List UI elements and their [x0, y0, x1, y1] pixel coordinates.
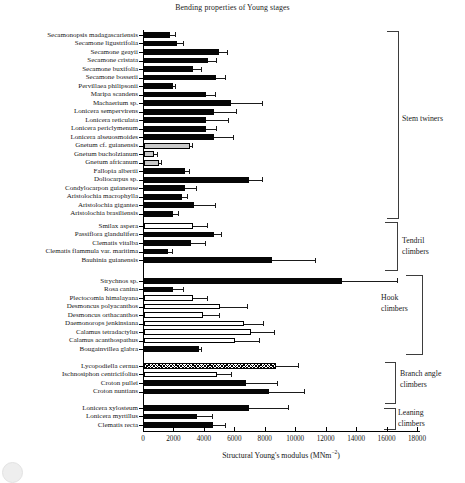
bar — [144, 75, 216, 81]
error-bar-cap — [175, 84, 176, 89]
bar — [144, 312, 203, 318]
error-bar — [276, 366, 299, 367]
group-label: Leaning climbers — [398, 407, 442, 429]
bar — [144, 240, 191, 246]
y-axis-tick — [139, 214, 143, 215]
x-axis-tick — [204, 427, 205, 431]
x-axis-tick — [356, 427, 357, 431]
error-bar-cap — [221, 232, 222, 237]
group-label: Stem twiners — [402, 113, 446, 124]
y-axis-tick — [139, 69, 143, 70]
species-label: Clematis vitalba — [0, 239, 138, 247]
error-bar-cap — [227, 50, 228, 55]
error-bar — [193, 226, 208, 227]
bar — [144, 346, 199, 352]
bar — [144, 143, 190, 149]
bar — [144, 278, 342, 284]
bar — [144, 372, 217, 378]
species-label: Desmoncus orthacanthos — [0, 311, 138, 319]
chart-title: Bending properties of Young stages — [0, 3, 465, 12]
error-bar-cap — [205, 241, 206, 246]
error-bar-cap — [277, 381, 278, 386]
species-label: Gnetum cf. guianensis — [0, 141, 138, 149]
error-bar — [197, 416, 212, 417]
error-bar-cap — [236, 109, 237, 114]
error-bar — [194, 205, 215, 206]
error-bar — [251, 332, 275, 333]
error-bar-cap — [196, 186, 197, 191]
y-axis-tick — [139, 180, 143, 181]
figure-bending-properties: Bending properties of Young stages Secam… — [0, 0, 465, 483]
error-bar-cap — [187, 194, 188, 199]
species-label: Clematis flammula var. maritima — [0, 247, 138, 255]
y-axis-tick — [139, 35, 143, 36]
x-tick-label: 8000 — [258, 435, 272, 443]
x-tick-label: 14000 — [347, 435, 365, 443]
bar — [144, 185, 185, 191]
species-label: Secamonopsis madagascariensis — [0, 31, 138, 39]
species-label: Passiflora glandulifera — [0, 230, 138, 238]
error-bar — [231, 103, 263, 104]
species-label: Machaerium sp. — [0, 99, 138, 107]
bar — [144, 109, 214, 115]
y-axis-tick — [139, 137, 143, 138]
bar — [144, 232, 214, 238]
y-axis-tick — [139, 197, 143, 198]
y-axis-tick — [139, 425, 143, 426]
error-bar-cap — [228, 118, 229, 123]
species-label: Smilax aspera — [0, 222, 138, 230]
species-label: Aristolochia gigantea — [0, 201, 138, 209]
group-bracket — [387, 31, 399, 219]
bar — [144, 100, 231, 106]
error-bar — [220, 307, 247, 308]
error-bar-cap — [397, 278, 398, 283]
x-tick-label: 2000 — [166, 435, 180, 443]
error-bar-cap — [216, 58, 217, 63]
error-bar — [246, 383, 278, 384]
error-bar — [235, 341, 259, 342]
species-label: Croton pullei — [0, 379, 138, 387]
error-bar-cap — [225, 75, 226, 80]
error-bar — [214, 137, 234, 138]
y-axis-tick — [139, 392, 143, 393]
y-axis-tick — [139, 383, 143, 384]
x-axis-tick — [295, 427, 296, 431]
error-bar-cap — [201, 347, 202, 352]
y-axis-tick — [139, 408, 143, 409]
error-bar-cap — [172, 249, 173, 254]
error-bar — [203, 315, 220, 316]
bar — [144, 83, 173, 89]
bar — [144, 117, 206, 123]
x-axis-label: Structural Young's modulus (MNm−2) — [143, 449, 419, 460]
error-bar-cap — [201, 67, 202, 72]
bar — [144, 422, 213, 428]
bar — [144, 202, 194, 208]
y-axis-tick — [139, 78, 143, 79]
y-axis-tick — [139, 289, 143, 290]
y-axis-tick — [139, 324, 143, 325]
species-label: Bougainvillea glabra — [0, 345, 138, 353]
error-bar-cap — [231, 372, 232, 377]
species-label: Desmoncus polyacanthos — [0, 302, 138, 310]
error-bar-cap — [157, 152, 158, 157]
species-label: Croton nuntians — [0, 387, 138, 395]
species-label: Aristolochia brasiliensis — [0, 209, 138, 217]
bar — [144, 160, 159, 166]
bar — [144, 58, 208, 64]
bar — [144, 389, 269, 395]
y-axis-tick — [139, 252, 143, 253]
error-bar-cap — [183, 41, 184, 46]
species-label: Aristolochia macrophylla — [0, 192, 138, 200]
bar — [144, 414, 197, 420]
error-bar-cap — [216, 126, 217, 131]
error-bar-cap — [161, 160, 162, 165]
error-bar-cap — [207, 223, 208, 228]
species-label: Gnetum bucholzianum — [0, 150, 138, 158]
y-axis-tick — [139, 374, 143, 375]
species-label: Secamone cristata — [0, 56, 138, 64]
species-label: Lonicera xylosteum — [0, 404, 138, 412]
group-label: Hook climbers — [381, 292, 427, 314]
error-bar-cap — [262, 101, 263, 106]
group-label: Branch angle climbers — [400, 368, 462, 390]
error-bar — [269, 392, 306, 393]
